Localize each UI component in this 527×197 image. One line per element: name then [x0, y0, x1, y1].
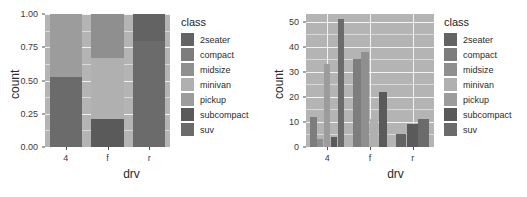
x-tick-mark [108, 147, 109, 150]
y-tick-label: 50 [264, 17, 299, 27]
y-tick-label: 0.50 [0, 76, 38, 86]
bar-segment [50, 14, 83, 77]
bar-segment [133, 14, 166, 41]
legend-entry: subcompact [444, 107, 512, 122]
x-tick-label: r [148, 153, 151, 163]
x-tick-mark [327, 147, 328, 150]
legend-swatch-2seater [181, 33, 194, 46]
legend-entry: 2seater [444, 32, 512, 47]
legend-label: compact [200, 50, 234, 60]
legend-swatch-compact [181, 48, 194, 61]
figure-page: count 0.000.250.500.751.00 4fr drv class… [0, 0, 527, 197]
legend-title-right: class [444, 16, 512, 28]
x-tick-label: r [411, 153, 414, 163]
bar-segment [133, 41, 166, 147]
x-tick-label: f [369, 153, 372, 163]
legend-label: subcompact [463, 110, 512, 120]
dodged-count-chart: count 01020304050 4fr drv class 2seaterc… [264, 0, 527, 197]
bar-segment [50, 77, 83, 147]
bar [324, 64, 330, 147]
legend-title-left: class [181, 16, 249, 28]
legend-entry: compact [181, 47, 249, 62]
legend-swatch-midsize [181, 63, 194, 76]
y-tick-label: 40 [264, 42, 299, 52]
legend-label: subcompact [200, 110, 249, 120]
legend-swatch-subcompact [444, 108, 457, 121]
legend-label: 2seater [200, 35, 230, 45]
legend-entry: suv [444, 122, 512, 137]
legend-entries-left: 2seatercompactmidsizeminivanpickupsubcom… [181, 32, 249, 137]
legend-right: class 2seatercompactmidsizeminivanpickup… [444, 16, 512, 137]
y-tick-label: 20 [264, 92, 299, 102]
legend-entry: minivan [444, 77, 512, 92]
legend-swatch-2seater [444, 33, 457, 46]
legend-swatch-minivan [444, 78, 457, 91]
plot-panel-left [45, 14, 170, 147]
bar [361, 52, 369, 147]
bar [353, 59, 361, 147]
legend-label: minivan [200, 80, 231, 90]
legend-entry: pickup [181, 92, 249, 107]
x-tick-label: 4 [325, 153, 330, 163]
legend-swatch-compact [444, 48, 457, 61]
legend-entry: 2seater [181, 32, 249, 47]
legend-label: pickup [200, 95, 226, 105]
legend-entry: suv [181, 122, 249, 137]
legend-swatch-midsize [444, 63, 457, 76]
legend-label: compact [463, 50, 497, 60]
y-tick-label: 0.75 [0, 42, 38, 52]
legend-label: minivan [463, 80, 494, 90]
x-tick-mark [66, 147, 67, 150]
y-tick-label: 10 [264, 117, 299, 127]
x-tick-mark [149, 147, 150, 150]
legend-swatch-subcompact [181, 108, 194, 121]
bar [407, 124, 418, 147]
stacked-proportion-chart: count 0.000.250.500.751.00 4fr drv class… [0, 0, 263, 197]
legend-entry: midsize [444, 62, 512, 77]
legend-label: suv [463, 125, 477, 135]
y-tick-label: 0.25 [0, 109, 38, 119]
y-tick-label: 0.00 [0, 142, 38, 152]
y-tick-label: 30 [264, 67, 299, 77]
plot-panel-right [306, 14, 434, 147]
legend-label: pickup [463, 95, 489, 105]
x-axis-title-right: drv [264, 167, 527, 181]
bar [331, 137, 337, 147]
legend-swatch-minivan [181, 78, 194, 91]
legend-entries-right: 2seatercompactmidsizeminivanpickupsubcom… [444, 32, 512, 137]
legend-left: class 2seatercompactmidsizeminivanpickup… [181, 16, 249, 137]
y-tick-label: 0 [264, 142, 299, 152]
legend-swatch-pickup [181, 93, 194, 106]
x-tick-mark [370, 147, 371, 150]
x-tick-label: f [106, 153, 109, 163]
legend-entry: pickup [444, 92, 512, 107]
x-tick-mark [413, 147, 414, 150]
bar [379, 92, 387, 147]
legend-label: 2seater [463, 35, 493, 45]
x-tick-label: 4 [63, 153, 68, 163]
legend-label: midsize [463, 65, 494, 75]
legend-swatch-suv [181, 123, 194, 136]
legend-swatch-pickup [444, 93, 457, 106]
bar [338, 19, 344, 147]
x-axis-title-left: drv [0, 167, 263, 181]
bar [317, 139, 323, 147]
bar [396, 134, 407, 147]
bar-segment [91, 14, 124, 58]
bar [310, 117, 316, 147]
legend-entry: compact [444, 47, 512, 62]
legend-label: midsize [200, 65, 231, 75]
bar [418, 119, 429, 147]
legend-label: suv [200, 125, 214, 135]
legend-entry: minivan [181, 77, 249, 92]
legend-swatch-suv [444, 123, 457, 136]
bar-segment [91, 58, 124, 119]
y-tick-label: 1.00 [0, 9, 38, 19]
bar-segment [91, 119, 124, 147]
bar [370, 119, 378, 147]
legend-entry: midsize [181, 62, 249, 77]
legend-entry: subcompact [181, 107, 249, 122]
